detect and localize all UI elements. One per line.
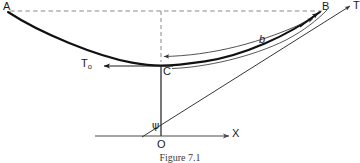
curve-arrowhead-at-b [300, 13, 318, 27]
label-point-o: O [157, 139, 166, 150]
figure-drawing [0, 0, 360, 163]
label-x-axis: X [232, 128, 239, 139]
label-angle-psi: ψ [152, 120, 159, 131]
tangent-tension-line [142, 6, 350, 137]
label-tension-t0-base: T [81, 57, 88, 69]
label-tension-t0: To [81, 58, 92, 71]
figure-caption: Figure 7.1 [0, 152, 360, 163]
label-point-a: A [3, 1, 10, 12]
label-span-b: b [259, 34, 265, 45]
label-tension-t: T [353, 0, 360, 11]
label-point-c: C [163, 66, 171, 77]
figure-container: A B C O X b To T ψ Figure 7.1 [0, 0, 360, 163]
label-point-b: B [322, 1, 329, 12]
catenary-inner-line [172, 10, 327, 69]
label-tension-t0-subscript: o [88, 62, 92, 71]
catenary-curve [8, 12, 320, 66]
